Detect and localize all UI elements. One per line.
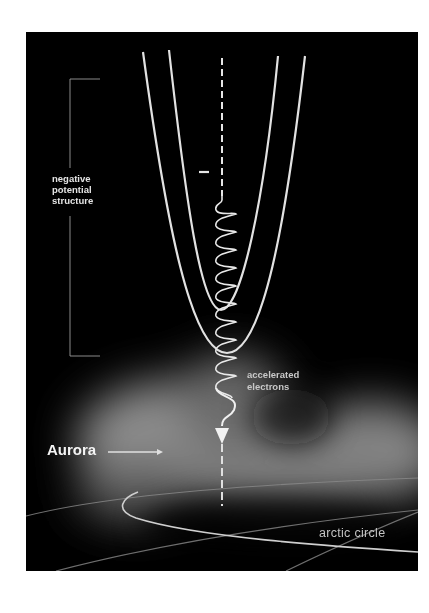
diagram-panel: negative potential structure accelerated… [26, 32, 418, 571]
diagram-canvas [26, 32, 418, 571]
aurora-label: Aurora [47, 441, 96, 458]
negative-potential-structure-label: negative potential structure [52, 173, 93, 206]
potential-structure-bracket [70, 79, 100, 356]
arctic-circle-label: arctic circle [319, 526, 385, 540]
accelerated-electrons-label: accelerated electrons [247, 369, 299, 393]
